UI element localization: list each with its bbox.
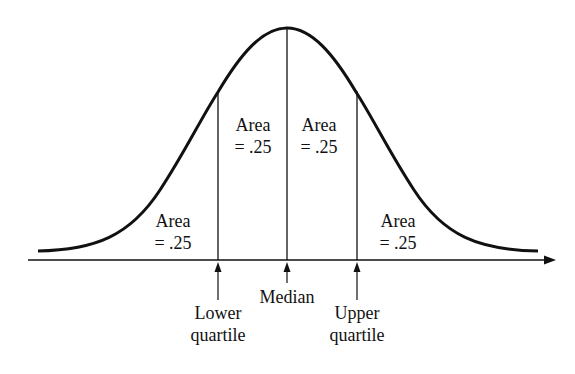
area-label-upper-middle: Area = .25 <box>291 114 347 158</box>
median-arrow-icon <box>284 262 291 272</box>
bell-curve-diagram <box>0 0 575 374</box>
marker-label-line1: Median <box>247 286 327 308</box>
area-label-right-tail: Area = .25 <box>370 210 426 254</box>
area-value-text: = .25 <box>145 232 201 254</box>
area-label-text: Area <box>225 114 281 136</box>
area-label-text: Area <box>145 210 201 232</box>
lower-quartile-label: Lower quartile <box>178 302 258 346</box>
marker-label-line1: Upper <box>317 302 397 324</box>
area-label-text: Area <box>370 210 426 232</box>
area-label-left-tail: Area = .25 <box>145 210 201 254</box>
lower-quartile-arrow-icon <box>215 262 222 272</box>
upper-quartile-label: Upper quartile <box>317 302 397 346</box>
area-value-text: = .25 <box>370 232 426 254</box>
median-label: Median <box>247 286 327 308</box>
upper-quartile-arrow-icon <box>354 262 361 272</box>
area-value-text: = .25 <box>225 136 281 158</box>
x-axis-arrowhead-icon <box>544 256 556 265</box>
marker-label-line2: quartile <box>317 324 397 346</box>
marker-label-line2: quartile <box>178 324 258 346</box>
area-label-lower-middle: Area = .25 <box>225 114 281 158</box>
bell-curve <box>38 28 538 251</box>
area-value-text: = .25 <box>291 136 347 158</box>
marker-label-line1: Lower <box>178 302 258 324</box>
area-label-text: Area <box>291 114 347 136</box>
